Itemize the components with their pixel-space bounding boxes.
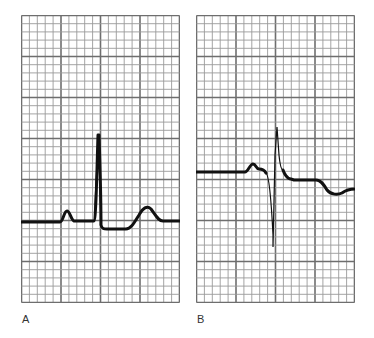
ecg-strip-a xyxy=(21,15,180,303)
panel-label-a: A xyxy=(22,313,29,325)
ecg-strip-b xyxy=(196,15,355,303)
ecg-panel-b xyxy=(196,15,355,303)
panel-label-b: B xyxy=(197,313,204,325)
ecg-panel-a xyxy=(21,15,180,303)
